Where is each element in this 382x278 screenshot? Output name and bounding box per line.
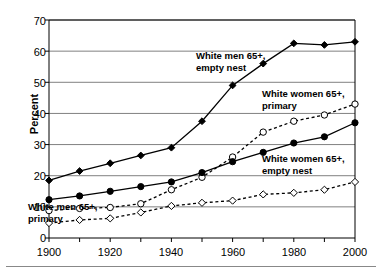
data-point [230,159,236,165]
data-point [76,168,83,175]
data-point [77,193,83,199]
data-point [107,160,114,167]
footer-divider [6,266,376,267]
data-point [321,112,327,118]
data-point [260,129,266,135]
data-point [321,134,327,140]
data-point [168,187,174,193]
plot-area [0,0,382,278]
data-point [352,38,359,45]
data-point [107,188,113,194]
data-point [107,204,113,210]
data-point [321,42,328,49]
chart-figure: Percent 0 10 20 30 40 50 60 70 1900 1920… [0,0,382,278]
data-point [351,178,358,185]
data-point [107,215,114,222]
data-point [229,197,236,204]
data-point [138,184,144,190]
data-point [46,177,53,184]
data-point [290,40,297,47]
data-point [290,189,297,196]
data-point [168,179,174,185]
data-point [168,202,175,209]
series-label-white-men-primary: White men 65+, primary [28,201,97,224]
series-label-white-men-empty-nest: White men 65+, empty nest [196,50,265,73]
series-label-white-women-primary: White women 65+, primary [262,88,345,111]
data-point [199,170,205,176]
data-point [321,186,328,193]
data-point [137,152,144,159]
data-point [137,209,144,216]
data-point [291,140,297,146]
data-point [260,191,267,198]
data-point [352,101,358,107]
data-point [352,120,358,126]
data-point [291,118,297,124]
data-point [198,199,205,206]
data-point [138,201,144,207]
series-label-white-women-empty-nest: White women 65+, empty nest [262,153,345,176]
